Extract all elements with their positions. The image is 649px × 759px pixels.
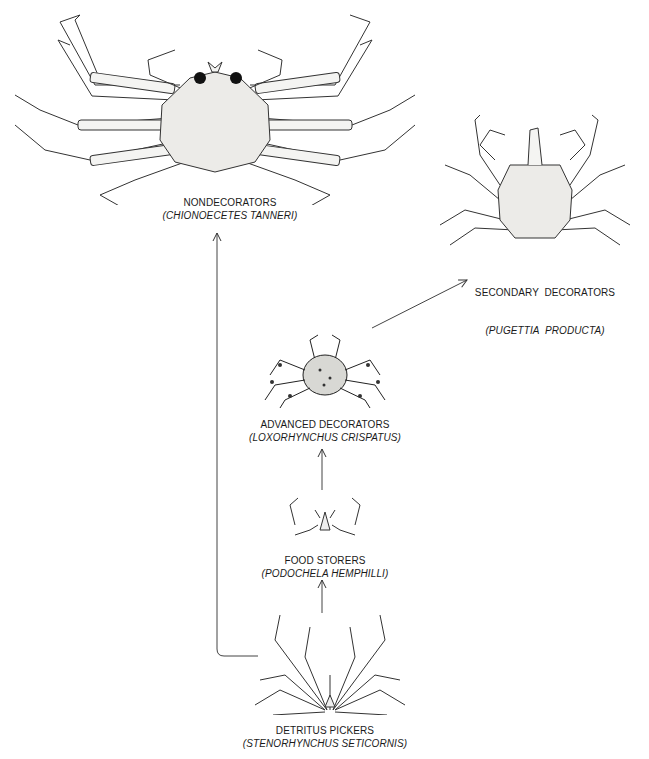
node-label-advanced-decorators: ADVANCED DECORATORS (LOXORHYNCHUS CRISPA…	[240, 419, 410, 444]
node-label-food-storers: FOOD STORERS (PODOCHELA HEMPHILLI)	[245, 555, 405, 580]
node-common-name: NONDECORATORS	[140, 197, 320, 210]
node-species-name: (CHIONOECETES TANNERI)	[140, 210, 320, 223]
node-species-name: (LOXORHYNCHUS CRISPATUS)	[240, 432, 410, 445]
crab-illustration-food-storers	[280, 490, 370, 540]
crab-illustration-nondecorators	[0, 0, 430, 205]
crab-illustration-secondary-decorators	[420, 100, 649, 260]
crab-illustration-advanced-decorators	[260, 330, 390, 410]
arrow-detritus-to-nondecorators	[217, 233, 258, 656]
crab-illustration-detritus-pickers	[245, 615, 415, 715]
node-species-name: (PODOCHELA HEMPHILLI)	[245, 568, 405, 581]
node-common-name: ADVANCED DECORATORS	[240, 419, 410, 432]
node-label-detritus-pickers: DETRITUS PICKERS (STENORHYNCHUS SETICORN…	[235, 725, 415, 750]
node-label-secondary-decorators: SECONDARY DECORATORS (PUGETTIA PRODUCTA)	[455, 262, 635, 350]
node-common-name: FOOD STORERS	[245, 555, 405, 568]
arrow-advanced-to-secondary	[372, 280, 467, 328]
node-species-name: (PUGETTIA PRODUCTA)	[455, 325, 635, 338]
node-label-nondecorators: NONDECORATORS (CHIONOECETES TANNERI)	[140, 197, 320, 222]
node-common-name: SECONDARY DECORATORS	[455, 287, 635, 300]
node-species-name: (STENORHYNCHUS SETICORNIS)	[235, 738, 415, 751]
node-common-name: DETRITUS PICKERS	[235, 725, 415, 738]
